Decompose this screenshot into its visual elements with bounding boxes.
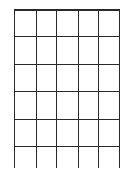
- grid-horizontal-line: [14, 9, 120, 11]
- grid-vertical-line: [119, 9, 120, 168]
- grid-vertical-line: [36, 9, 37, 168]
- grid-vertical-line: [78, 9, 79, 168]
- grid-horizontal-line: [14, 91, 120, 92]
- grid-vertical-line: [56, 9, 57, 168]
- grid-horizontal-line: [14, 64, 120, 65]
- grid-horizontal-line: [14, 119, 120, 120]
- grid-drawing: [0, 0, 139, 177]
- grid-vertical-line: [14, 9, 15, 168]
- grid-vertical-line: [98, 9, 99, 168]
- grid-horizontal-line: [14, 36, 120, 37]
- grid-horizontal-line: [14, 146, 120, 147]
